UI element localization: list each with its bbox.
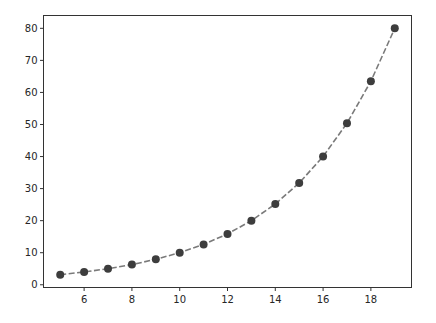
x-tick-label: 16	[317, 294, 330, 305]
x-tick-label: 14	[269, 294, 282, 305]
data-point	[295, 179, 303, 187]
plot-area	[56, 24, 399, 278]
y-tick-label: 30	[25, 183, 38, 194]
data-point	[271, 200, 279, 208]
data-point	[343, 119, 351, 127]
y-tick-label: 0	[31, 279, 37, 290]
axes-frame	[44, 16, 412, 288]
data-point	[176, 249, 184, 257]
x-tick-label: 12	[221, 294, 234, 305]
data-point	[104, 265, 112, 273]
data-point	[80, 268, 88, 276]
y-tick-label: 70	[25, 55, 38, 66]
y-tick-label: 50	[25, 119, 38, 130]
x-tick-label: 6	[81, 294, 87, 305]
y-tick-label: 10	[25, 247, 38, 258]
data-point	[200, 240, 208, 248]
x-tick-label: 8	[129, 294, 135, 305]
x-tick-label: 18	[365, 294, 378, 305]
data-point	[247, 217, 255, 225]
y-axis: 01020304050607080	[25, 23, 44, 290]
data-point	[128, 261, 136, 269]
data-point	[224, 230, 232, 238]
y-tick-label: 20	[25, 215, 38, 226]
x-tick-label: 10	[173, 294, 186, 305]
y-tick-label: 40	[25, 151, 38, 162]
data-point	[391, 24, 399, 32]
line-chart: 681012141618 01020304050607080	[0, 0, 436, 323]
data-point	[152, 255, 160, 263]
data-point	[367, 77, 375, 85]
y-tick-label: 60	[25, 87, 38, 98]
data-point	[56, 271, 64, 279]
data-point	[319, 153, 327, 161]
y-tick-label: 80	[25, 23, 38, 34]
x-axis: 681012141618	[81, 288, 377, 305]
